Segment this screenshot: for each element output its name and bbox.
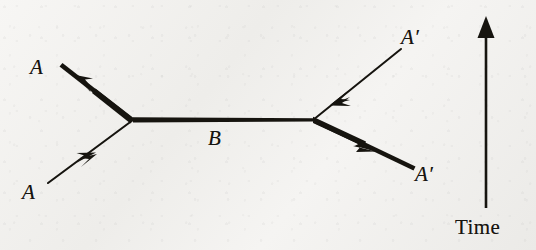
label-propagator-B: B [208,128,221,149]
incoming-A-line [48,120,133,183]
label-incoming-A: A [22,182,35,203]
time-axis-arrowhead [478,16,495,38]
propagator-B-line [133,117,313,122]
incoming-A-prime-line [313,49,401,120]
label-outgoing-A-prime: A′ [415,164,433,185]
edge-incoming-A-prime [313,49,401,120]
outgoing-A-line-thick [92,89,134,124]
label-incoming-A-prime: A′ [401,27,419,48]
label-time-axis: Time [455,217,500,238]
edge-outgoing-A-prime [313,117,416,171]
time-axis-arrow [478,16,495,208]
feynman-diagram-figure: A A B A′ A′ Time [0,0,536,250]
diagram-canvas [0,0,536,250]
incoming-A-arrowhead-barb [77,153,97,163]
label-outgoing-A: A [30,57,43,78]
edge-outgoing-A [60,63,134,124]
edge-incoming-A [48,120,133,183]
edge-propagator-B [133,117,313,122]
outgoing-A-arrowhead [73,75,93,89]
outgoing-A-prime-line-thick [313,117,366,147]
